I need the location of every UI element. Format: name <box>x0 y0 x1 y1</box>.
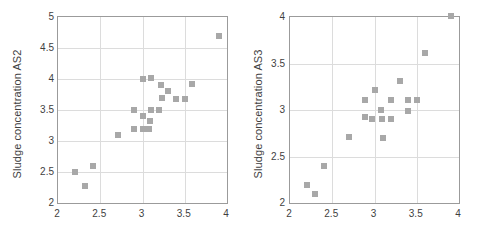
data-point-as2 <box>115 132 121 138</box>
y-tick-label-as3: 2.5 <box>271 150 285 161</box>
gridline-vertical <box>417 17 418 203</box>
gridline-vertical <box>100 17 101 203</box>
data-point-as2 <box>158 82 164 88</box>
gridline-vertical <box>332 17 333 203</box>
data-point-as2 <box>156 107 162 113</box>
y-tick-label-as2: 4.5 <box>40 42 54 53</box>
y-tick-label-as3: 4 <box>279 11 285 22</box>
data-point-as2 <box>148 107 154 113</box>
data-point-as3 <box>388 116 394 122</box>
data-point-as2 <box>147 118 153 124</box>
y-tick-label-as2: 4 <box>48 73 54 84</box>
data-point-as3 <box>414 97 420 103</box>
data-point-as3 <box>372 87 378 93</box>
x-tick-label-as3: 2 <box>286 208 292 219</box>
data-point-as2 <box>140 113 146 119</box>
data-point-as2 <box>131 126 137 132</box>
data-point-as2 <box>148 75 154 81</box>
chart-panel-as3: Sludge concentration AS3 22.533.5422.533… <box>243 0 485 228</box>
data-point-as3 <box>362 97 368 103</box>
x-tick-label-as3: 2.5 <box>324 208 338 219</box>
x-tick-label-as3: 4 <box>455 208 461 219</box>
y-tick-label-as2: 2.5 <box>40 166 54 177</box>
y-tick-label-as3: 3 <box>279 104 285 115</box>
data-point-as3 <box>369 116 375 122</box>
data-point-as2 <box>159 95 165 101</box>
data-point-as2 <box>189 81 195 87</box>
data-point-as2 <box>72 169 78 175</box>
x-tick-label-as2: 2.5 <box>92 208 106 219</box>
x-tick-label-as2: 3.5 <box>177 208 191 219</box>
scatter-plot-figure: Sludge concentration AS2 22.533.544.5522… <box>0 0 485 228</box>
data-point-as3 <box>422 50 428 56</box>
data-point-as3 <box>346 134 352 140</box>
data-point-as3 <box>380 135 386 141</box>
data-point-as2 <box>173 96 179 102</box>
data-point-as2 <box>140 126 146 132</box>
data-point-as2 <box>216 33 222 39</box>
gridline-vertical <box>185 17 186 203</box>
data-point-as3 <box>379 116 385 122</box>
plot-area-as2 <box>57 16 228 204</box>
y-tick-label-as3: 2 <box>279 197 285 208</box>
data-point-as3 <box>397 78 403 84</box>
plot-area-as3 <box>289 16 460 204</box>
x-tick-label-as2: 2 <box>54 208 60 219</box>
data-point-as3 <box>378 107 384 113</box>
gridline-vertical <box>375 17 376 203</box>
y-tick-label-as2: 5 <box>48 11 54 22</box>
data-point-as3 <box>405 108 411 114</box>
data-point-as2 <box>182 96 188 102</box>
y-axis-title-as3: Sludge concentration AS3 <box>249 0 267 228</box>
data-point-as3 <box>448 13 454 19</box>
data-point-as3 <box>388 97 394 103</box>
x-tick-label-as3: 3 <box>371 208 377 219</box>
y-tick-label-as2: 3 <box>48 135 54 146</box>
data-point-as2 <box>146 126 152 132</box>
data-point-as3 <box>321 163 327 169</box>
data-point-as2 <box>140 76 146 82</box>
data-point-as3 <box>362 114 368 120</box>
data-point-as2 <box>131 107 137 113</box>
data-point-as2 <box>165 88 171 94</box>
y-tick-label-as2: 2 <box>48 197 54 208</box>
x-tick-label-as3: 3.5 <box>409 208 423 219</box>
x-tick-label-as2: 4 <box>223 208 229 219</box>
data-point-as2 <box>90 163 96 169</box>
chart-panel-as2: Sludge concentration AS2 22.533.544.5522… <box>0 0 243 228</box>
data-point-as3 <box>312 191 318 197</box>
data-point-as3 <box>304 182 310 188</box>
data-point-as2 <box>82 183 88 189</box>
y-axis-title-as2: Sludge concentration AS2 <box>8 0 26 228</box>
y-tick-label-as3: 3.5 <box>271 57 285 68</box>
x-tick-label-as2: 3 <box>139 208 145 219</box>
gridline-vertical <box>143 17 144 203</box>
y-tick-label-as2: 3.5 <box>40 104 54 115</box>
data-point-as3 <box>405 97 411 103</box>
